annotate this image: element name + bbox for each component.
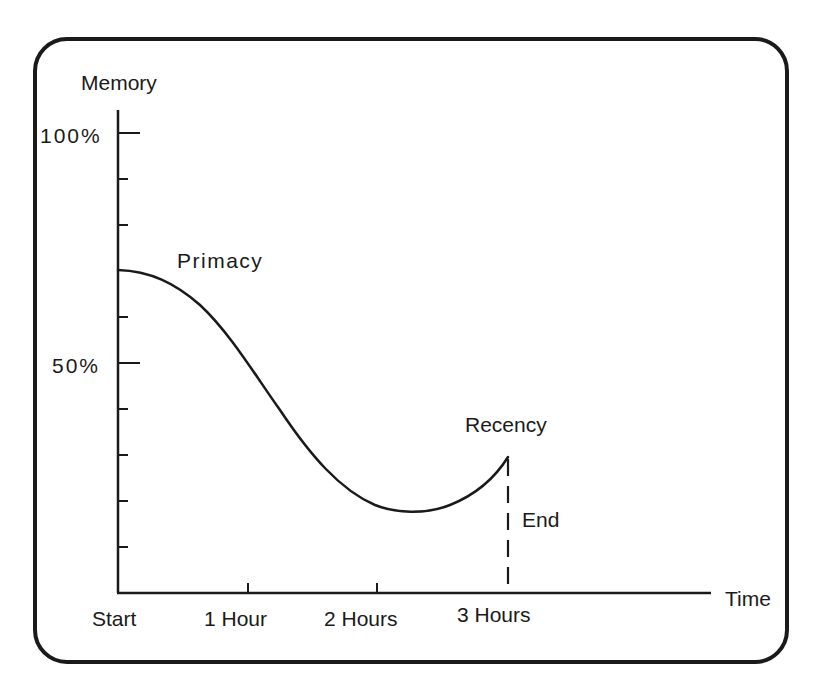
- y-tick-label-50: 50%: [52, 354, 100, 377]
- x-ticks: [248, 583, 377, 593]
- end-annotation: End: [522, 508, 559, 531]
- y-axis-label: Memory: [81, 71, 157, 94]
- chart-svg: Memory 100% 50% Start 1 Hour 2 Hours 3 H…: [0, 0, 815, 696]
- recency-annotation: Recency: [465, 413, 547, 436]
- memory-curve: [118, 270, 508, 512]
- x-tick-label-2h: 2 Hours: [324, 607, 398, 630]
- x-axis-label: Time: [725, 587, 771, 610]
- x-tick-label-start: Start: [92, 607, 137, 630]
- x-tick-label-3h: 3 Hours: [457, 603, 531, 626]
- y-tick-label-100: 100%: [40, 124, 102, 147]
- x-tick-label-1h: 1 Hour: [204, 607, 267, 630]
- primacy-annotation: Primacy: [177, 249, 263, 272]
